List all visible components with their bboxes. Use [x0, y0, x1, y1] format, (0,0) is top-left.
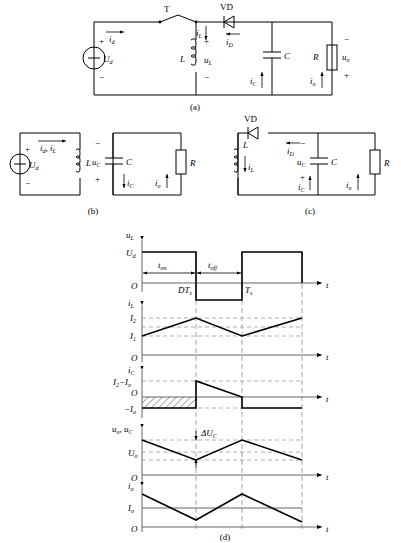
- iC-hatched-area: [142, 397, 196, 408]
- uo-minus-a: −: [344, 34, 349, 44]
- diode-symbol-c: [248, 127, 258, 139]
- io-tick-Io: Io: [127, 503, 134, 514]
- waveform-panel-d: uL Ud O ton toff DTs Ts t: [112, 230, 329, 542]
- iC-tick-I2-Io: I2−Io: [112, 377, 131, 388]
- uL-waveform: [142, 252, 302, 300]
- waveform-iL: iL I2 I1 O t: [128, 298, 329, 363]
- tick-DTs: DTs: [177, 285, 193, 296]
- current-label-idL-b: id, iL: [40, 143, 57, 154]
- caption-a: (a): [190, 102, 200, 112]
- circuit-diagram-c: R VD iD L iL C − uC + iC: [234, 114, 390, 216]
- circuit-diagram-a: Ud + − id T L iL + uL −: [83, 2, 350, 112]
- t-off-label: toff: [208, 260, 218, 271]
- uC-label-c: uC: [297, 157, 307, 168]
- uC-plus-c: +: [300, 172, 305, 182]
- figure-boost-converter: Ud + − id T L iL + uL −: [0, 0, 401, 543]
- diode-label-a: VD: [220, 2, 233, 12]
- inductor-symbol-c: [234, 149, 238, 172]
- current-label-io-a: io: [310, 76, 316, 87]
- uo-uC-axis-label: uo, uC: [112, 424, 134, 435]
- iC-tick-minus-Io: −Io: [124, 404, 136, 415]
- uo-uC-waveform: [142, 440, 302, 460]
- iL-tick-I2: I2: [129, 313, 136, 324]
- waveform-uL: uL Ud O ton toff DTs Ts t: [126, 230, 329, 300]
- inductor-symbol-a: [191, 39, 196, 66]
- capacitor-label-c: C: [331, 157, 338, 167]
- waveform-uo-uC: uo, uC Uo O ΔUC t: [112, 424, 329, 483]
- uL-t-axis-label: t: [326, 280, 329, 290]
- circuit-diagram-b: Ud + − L id, iL R C − uC + iC io: [10, 133, 196, 216]
- capacitor-label-a: C: [284, 51, 291, 61]
- iL-t-axis-label: t: [326, 352, 329, 362]
- uL-label-a: uL: [204, 55, 213, 66]
- iC-t-axis-label: t: [326, 394, 329, 404]
- io-t-axis-label: t: [326, 524, 329, 534]
- iL-tick-I1: I1: [129, 331, 136, 342]
- uo-t-axis-label: t: [326, 472, 329, 482]
- source-plus-b: +: [25, 144, 30, 154]
- uo-tick-Uo: Uo: [128, 448, 138, 459]
- uo-label-a: uo: [342, 52, 350, 63]
- t-on-label: ton: [158, 260, 167, 271]
- uL-origin: O: [131, 281, 138, 291]
- iL-axis-label: iL: [128, 298, 135, 309]
- current-label-io-b: io: [155, 178, 161, 189]
- waveform-iC: iC I2−Io O −Io t: [112, 365, 329, 418]
- current-label-iD-c: iD: [287, 146, 295, 157]
- inductor-label-a: L: [179, 54, 185, 64]
- current-label-iD-a: iD: [226, 37, 234, 48]
- uL-tick-Ud: Ud: [126, 248, 137, 259]
- resistor-label-b: R: [189, 158, 196, 168]
- current-label-iL-a: iL: [196, 28, 203, 39]
- source-label-b: Ud: [29, 160, 40, 171]
- capacitor-label-b: C: [126, 157, 133, 167]
- uL-minus-a: −: [204, 72, 209, 82]
- io-origin: O: [131, 524, 138, 534]
- inductor-label-b: L: [85, 158, 91, 168]
- tick-Ts: Ts: [245, 285, 253, 296]
- source-minus-b: −: [25, 178, 30, 188]
- current-label-iC-a: iC: [250, 76, 258, 87]
- inductor-symbol-b: [76, 149, 80, 172]
- source-label-a: Ud: [103, 54, 114, 65]
- caption-d: (d): [220, 532, 231, 542]
- iC-axis-label: iC: [128, 365, 136, 376]
- current-label-io-c: io: [346, 180, 352, 191]
- current-label-iC-b: iC: [127, 178, 135, 189]
- current-label-iC-c: iC: [298, 182, 306, 193]
- current-label-id-a: id: [109, 34, 116, 45]
- resistor-label-c: R: [383, 158, 390, 168]
- caption-b: (b): [88, 206, 99, 216]
- uo-origin: O: [131, 473, 138, 483]
- resistor-label-a: R: [312, 52, 319, 62]
- diode-label-c: VD: [244, 114, 257, 124]
- uL-axis-label: uL: [126, 230, 135, 241]
- uC-plus-b: +: [95, 174, 100, 184]
- delta-uc-label: ΔUC: [200, 428, 218, 439]
- uC-minus-c: −: [300, 138, 305, 148]
- uC-minus-b: −: [95, 138, 100, 148]
- source-plus-a: +: [99, 36, 104, 46]
- caption-c: (c): [305, 206, 315, 216]
- switch-label-a: T: [164, 4, 170, 14]
- current-label-iL-c: iL: [248, 162, 255, 173]
- inductor-label-c: L: [242, 140, 248, 150]
- iC-origin: O: [131, 388, 138, 398]
- resistor-symbol-b: [176, 150, 186, 174]
- uL-plus-a: +: [204, 36, 209, 46]
- source-minus-a: −: [99, 72, 104, 82]
- waveform-io: io Io O t: [127, 481, 329, 534]
- iL-origin: O: [131, 353, 138, 363]
- uC-label-b: uC: [92, 157, 102, 168]
- resistor-symbol-c: [370, 150, 380, 174]
- uo-plus-a: +: [344, 70, 349, 80]
